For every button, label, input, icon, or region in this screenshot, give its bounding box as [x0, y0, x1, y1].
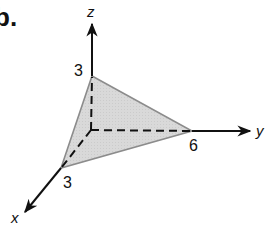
plane-triangle: [61, 76, 192, 168]
plane-intercept-diagram: z y x 3 6 3: [0, 0, 273, 227]
y-axis-label: y: [255, 122, 265, 139]
x-axis: [25, 168, 61, 212]
x-axis-label: x: [10, 209, 19, 226]
z-axis-label: z: [86, 3, 95, 20]
y-intercept-label: 6: [189, 137, 198, 154]
x-intercept-label: 3: [63, 174, 72, 191]
z-axis-hidden: [91, 77, 92, 130]
z-intercept-label: 3: [74, 62, 83, 79]
